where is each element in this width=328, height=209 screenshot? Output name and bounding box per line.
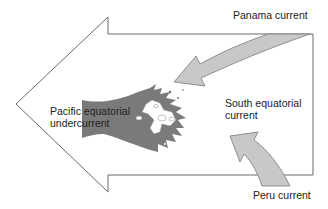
south-equatorial-current-label: South equatorial current <box>225 97 301 121</box>
pacific-label-line2: undercurrent <box>50 117 130 129</box>
pacific-label-line1: Pacific equatorial <box>50 105 130 117</box>
peru-current-label: Peru current <box>253 189 311 201</box>
south-equatorial-label-line2: current <box>225 109 301 121</box>
ocean-currents-diagram: Panama current South equatorial current … <box>0 0 328 209</box>
south-equatorial-label-line1: South equatorial <box>225 97 301 109</box>
panama-current-label: Panama current <box>233 9 308 21</box>
pacific-equatorial-undercurrent-label: Pacific equatorial undercurrent <box>50 105 130 129</box>
